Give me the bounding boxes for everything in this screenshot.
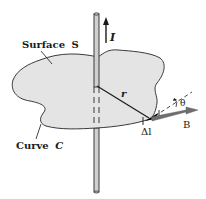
- surface-label: Surface S: [22, 39, 79, 50]
- surface-s: [12, 50, 164, 129]
- curve-label: Curve C: [16, 140, 63, 151]
- curve-leader-line: [36, 124, 41, 139]
- current-label: I: [109, 31, 116, 44]
- ampere-law-diagram: I r B θ Δl Surface S Curve C: [0, 0, 206, 199]
- curve-label-text: Curve: [16, 140, 49, 151]
- delta-l-label: Δl: [141, 126, 151, 137]
- curve-symbol: C: [55, 140, 63, 151]
- radius-label: r: [121, 88, 127, 99]
- field-b-label: B: [183, 119, 190, 130]
- angle-theta-label: θ: [180, 98, 185, 108]
- angle-theta-arc-icon: [173, 98, 177, 107]
- current-arrow-icon: [103, 17, 109, 43]
- surface-label-text: Surface: [22, 39, 65, 50]
- wire-lower: [94, 128, 99, 193]
- surface-symbol: S: [71, 39, 78, 50]
- wire-upper: [94, 13, 99, 87]
